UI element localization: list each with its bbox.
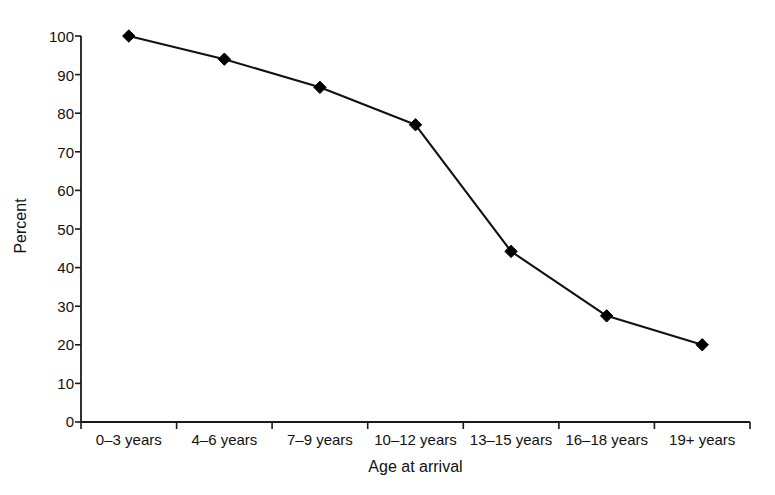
data-point-marker [218,53,230,65]
y-tick-label: 50 [57,221,74,238]
y-tick-label: 0 [66,413,74,430]
data-point-marker [123,30,135,42]
y-tick-label: 80 [57,105,74,122]
y-tick-label: 20 [57,336,74,353]
x-tick-label: 7–9 years [287,431,353,448]
y-axis-title: Percent [12,198,29,254]
y-tick-label: 60 [57,182,74,199]
x-axis-ticks [81,422,750,429]
y-tick-label: 70 [57,144,74,161]
data-series-line [129,36,702,345]
data-point-markers [123,30,709,351]
x-axis-category-labels: 0–3 years 4–6 years 7–9 years 10–12 year… [96,431,735,448]
data-point-marker [600,310,612,322]
x-tick-label: 19+ years [669,431,735,448]
x-axis-title: Age at arrival [368,458,462,475]
data-point-marker [314,81,326,93]
x-tick-label: 10–12 years [374,431,457,448]
x-tick-label: 4–6 years [191,431,257,448]
y-tick-label: 90 [57,67,74,84]
x-tick-label: 16–18 years [565,431,648,448]
y-tick-label: 40 [57,259,74,276]
line-chart-canvas: Percent 100 90 80 70 60 50 40 30 20 10 0 [0,0,775,495]
y-tick-label: 100 [49,28,74,45]
y-axis-tick-labels: 100 90 80 70 60 50 40 30 20 10 0 [49,28,74,430]
chart-figure: Percent 100 90 80 70 60 50 40 30 20 10 0 [0,0,775,495]
y-tick-label: 10 [57,375,74,392]
x-tick-label: 13–15 years [470,431,553,448]
y-tick-label: 30 [57,298,74,315]
data-point-marker [696,339,708,351]
x-tick-label: 0–3 years [96,431,162,448]
